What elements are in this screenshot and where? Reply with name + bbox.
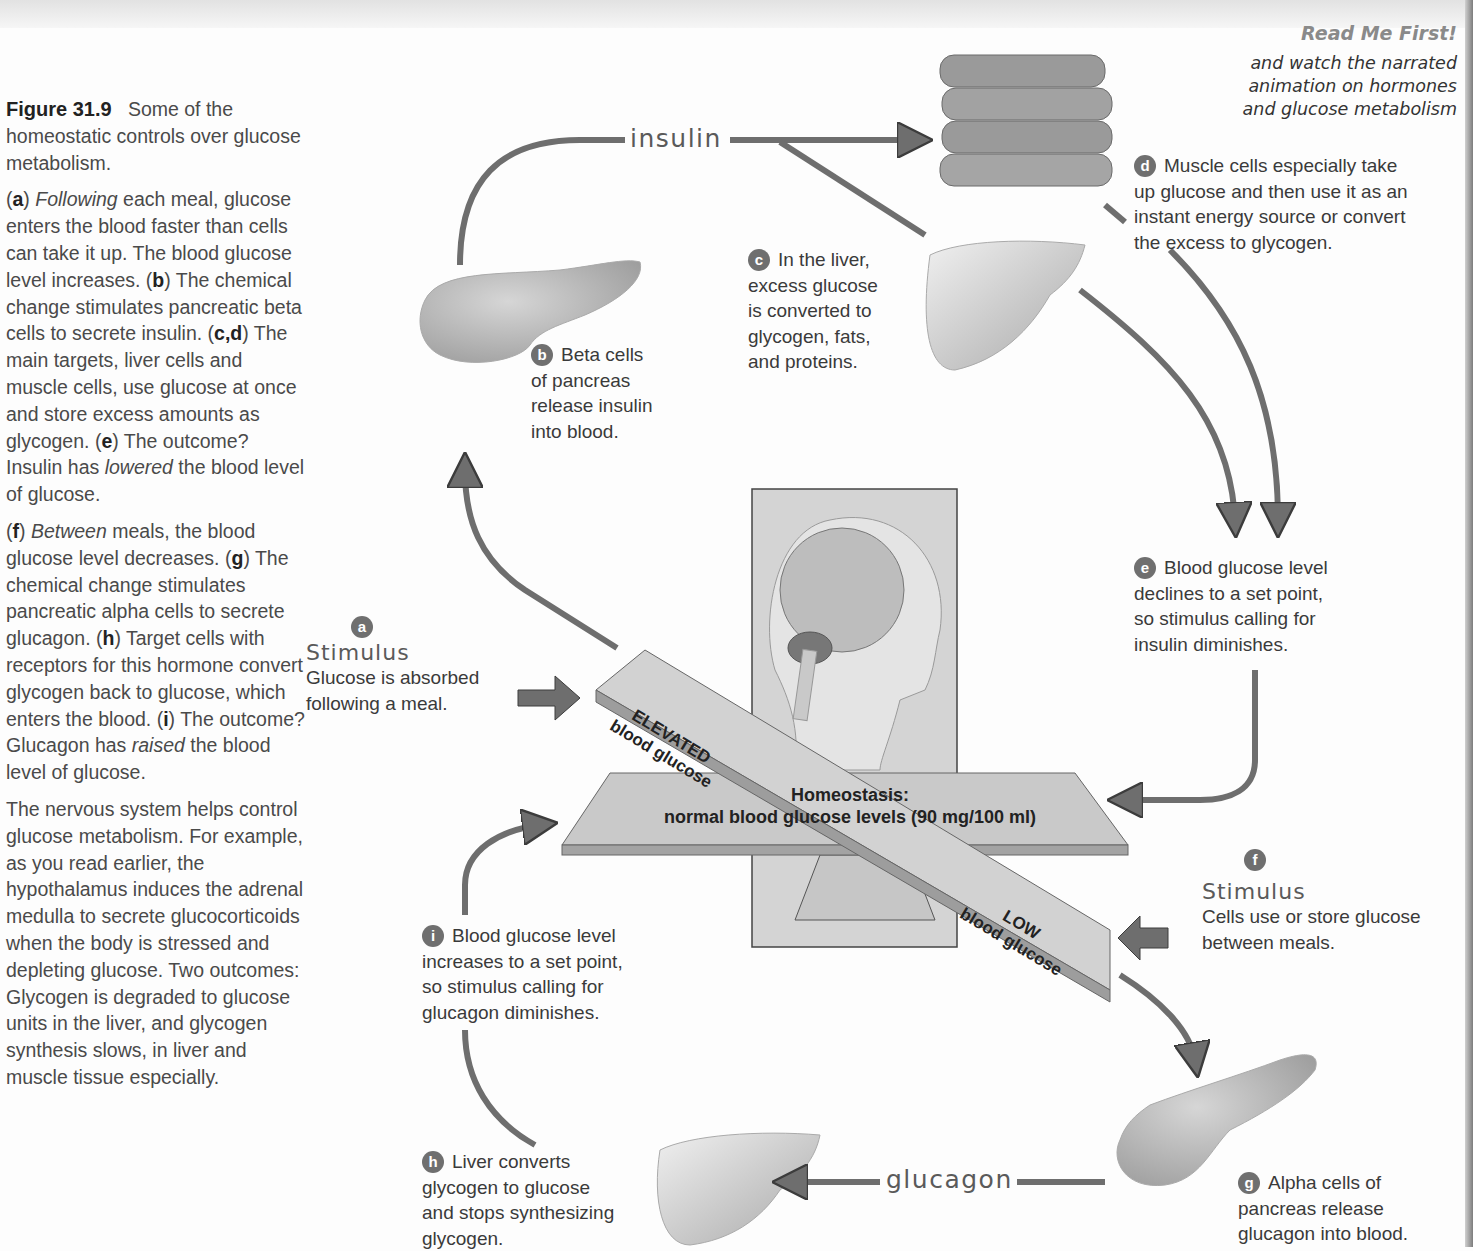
brain-icon (780, 528, 904, 652)
pancreas-alpha-image (1117, 1055, 1316, 1186)
read-me-first-title: Read Me First! (1243, 22, 1457, 44)
read-me-first-text: and watch the narrated animation on horm… (1243, 52, 1457, 121)
step-a-stimulus: a Stimulus Glucose is absorbed following… (306, 614, 479, 716)
badge-b: b (531, 344, 553, 366)
step-f-stimulus: f Stimulus Cells use or store glucose be… (1202, 847, 1421, 955)
badge-a: a (351, 616, 373, 638)
step-e-label: eBlood glucose level declines to a set p… (1134, 555, 1328, 657)
read-me-first-callout: Read Me First! and watch the narrated an… (1243, 22, 1457, 121)
muscle-cells-image (940, 55, 1112, 186)
liver-bottom-image (657, 1133, 820, 1245)
badge-f: f (1244, 849, 1266, 871)
step-g-label: gAlpha cells of pancreas releaseglucagon… (1238, 1170, 1408, 1247)
hormone-label-glucagon: glucagon (882, 1165, 1017, 1194)
step-c-label: cIn the liver, excess glucoseis converte… (748, 247, 878, 375)
badge-e: e (1134, 557, 1156, 579)
stimulus-arrow-a (518, 676, 580, 720)
liver-top-image (926, 241, 1085, 370)
badge-c: c (748, 249, 770, 271)
badge-i: i (422, 925, 444, 947)
stimulus-arrow-f (1118, 916, 1168, 960)
step-d-label: dMuscle cells especially take up glucose… (1134, 153, 1408, 255)
step-h-label: hLiver converts glycogen to glucoseand s… (422, 1149, 614, 1251)
hormone-label-insulin: insulin (626, 124, 726, 153)
step-i-label: iBlood glucose level increases to a set … (422, 923, 623, 1025)
homeostasis-label: Homeostasis: normal blood glucose levels… (600, 784, 1100, 828)
badge-h: h (422, 1151, 444, 1173)
badge-d: d (1134, 155, 1156, 177)
badge-g: g (1238, 1172, 1260, 1194)
stimulus-title-a: Stimulus (306, 640, 479, 666)
step-b-label: bBeta cells of pancreasrelease insulinin… (531, 342, 652, 444)
stimulus-title-f: Stimulus (1202, 879, 1421, 905)
